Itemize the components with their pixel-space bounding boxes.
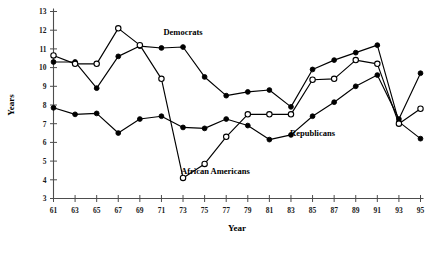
data-point bbox=[159, 46, 164, 51]
data-point bbox=[245, 90, 250, 95]
series-line bbox=[54, 28, 421, 178]
x-axis-title: Year bbox=[228, 223, 246, 233]
x-tick-label-87: 87 bbox=[330, 206, 338, 215]
chart-canvas: 345678910111213 616365676971737577798183… bbox=[0, 0, 439, 266]
data-point bbox=[353, 84, 358, 89]
series-line bbox=[54, 73, 421, 139]
y-tick-label-9: 9 bbox=[43, 82, 47, 91]
x-tick-label-91: 91 bbox=[374, 206, 382, 215]
x-tick-label-73: 73 bbox=[179, 206, 187, 215]
series-annotations: DemocratsRepublicansAfrican Americans bbox=[163, 27, 335, 176]
data-point bbox=[94, 61, 99, 66]
y-tick-label-4: 4 bbox=[43, 176, 47, 185]
data-point bbox=[353, 50, 358, 55]
data-point bbox=[51, 60, 56, 65]
y-tick-label-10: 10 bbox=[39, 63, 47, 72]
x-tick-label-71: 71 bbox=[158, 206, 166, 215]
data-point bbox=[51, 53, 56, 58]
data-point bbox=[310, 77, 315, 82]
series-republicans bbox=[51, 71, 423, 142]
data-point bbox=[202, 126, 207, 131]
data-point bbox=[332, 100, 337, 105]
data-point bbox=[353, 57, 358, 62]
y-tick-label-3: 3 bbox=[43, 194, 47, 203]
data-point bbox=[94, 86, 99, 91]
data-point bbox=[159, 76, 164, 81]
data-point bbox=[116, 131, 121, 136]
data-point bbox=[418, 106, 423, 111]
x-tick-label-81: 81 bbox=[266, 206, 274, 215]
data-point bbox=[73, 112, 78, 117]
series-layer bbox=[51, 26, 423, 181]
y-tick-label-6: 6 bbox=[43, 138, 47, 147]
x-tick-label-61: 61 bbox=[50, 206, 58, 215]
data-point bbox=[224, 93, 229, 98]
data-point bbox=[224, 134, 229, 139]
data-point bbox=[375, 43, 380, 48]
annotation-african-americans: African Americans bbox=[181, 166, 250, 176]
x-tick-label-77: 77 bbox=[222, 206, 230, 215]
data-point bbox=[181, 125, 186, 130]
data-point bbox=[202, 75, 207, 80]
data-point bbox=[224, 117, 229, 122]
x-tick-label-65: 65 bbox=[93, 206, 101, 215]
x-tick-label-83: 83 bbox=[287, 206, 295, 215]
x-tick-label-63: 63 bbox=[71, 206, 79, 215]
y-tick-label-12: 12 bbox=[39, 26, 47, 35]
x-tick-label-95: 95 bbox=[417, 206, 425, 215]
x-axis-ticks: 616365676971737577798183858789919395 bbox=[50, 195, 425, 215]
annotation-democrats: Democrats bbox=[163, 27, 203, 37]
y-tick-label-7: 7 bbox=[43, 120, 47, 129]
data-point bbox=[137, 117, 142, 122]
line-chart: 345678910111213 616365676971737577798183… bbox=[0, 0, 439, 266]
data-point bbox=[116, 54, 121, 59]
data-point bbox=[289, 104, 294, 109]
data-point bbox=[310, 67, 315, 72]
data-point bbox=[375, 61, 380, 66]
data-point bbox=[267, 88, 272, 93]
data-point bbox=[116, 26, 121, 31]
data-point bbox=[396, 121, 401, 126]
data-point bbox=[267, 112, 272, 117]
data-point bbox=[137, 42, 142, 47]
data-point bbox=[245, 123, 250, 128]
x-tick-label-67: 67 bbox=[115, 206, 123, 215]
y-tick-label-13: 13 bbox=[39, 7, 47, 16]
y-tick-label-11: 11 bbox=[39, 45, 46, 54]
data-point bbox=[331, 76, 336, 81]
y-tick-label-8: 8 bbox=[43, 101, 47, 110]
data-point bbox=[181, 45, 186, 50]
data-point bbox=[288, 112, 293, 117]
annotation-republicans: Republicans bbox=[290, 128, 336, 138]
x-axis: 616365676971737577798183858789919395 bbox=[50, 195, 425, 215]
data-point bbox=[159, 114, 164, 119]
y-tick-label-5: 5 bbox=[43, 157, 47, 166]
x-tick-label-93: 93 bbox=[395, 206, 403, 215]
data-point bbox=[418, 136, 423, 141]
x-tick-label-89: 89 bbox=[352, 206, 360, 215]
data-point bbox=[332, 58, 337, 63]
y-axis-title: Years bbox=[6, 94, 16, 116]
data-point bbox=[245, 112, 250, 117]
data-point bbox=[418, 71, 423, 76]
data-point bbox=[94, 111, 99, 116]
x-tick-label-85: 85 bbox=[309, 206, 317, 215]
data-point bbox=[375, 73, 380, 78]
x-tick-label-69: 69 bbox=[136, 206, 144, 215]
data-point bbox=[267, 137, 272, 142]
data-point bbox=[51, 105, 56, 110]
data-point bbox=[72, 61, 77, 66]
data-point bbox=[310, 114, 315, 119]
x-tick-label-75: 75 bbox=[201, 206, 209, 215]
x-tick-label-79: 79 bbox=[244, 206, 252, 215]
